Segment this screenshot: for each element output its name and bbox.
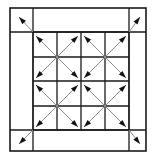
figure-svg <box>0 0 156 162</box>
diagram-canvas <box>0 0 156 162</box>
